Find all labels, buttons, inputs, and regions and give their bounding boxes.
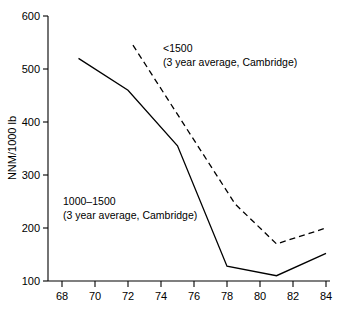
x-tick-label: 80	[254, 290, 266, 302]
x-tick-label: 82	[287, 290, 299, 302]
y-tick-label: 100	[22, 275, 40, 287]
x-axis-ticks	[62, 281, 326, 287]
x-tick-label: 68	[56, 290, 68, 302]
annotation-lower-line1: 1000–1500	[63, 195, 116, 207]
x-tick-label: 78	[221, 290, 233, 302]
x-tick-label: 70	[89, 290, 101, 302]
annotation-lower-line2: (3 year average, Cambridge)	[63, 209, 197, 221]
annotation-lower: 1000–1500 (3 year average, Cambridge)	[63, 195, 197, 221]
x-tick-label: 72	[122, 290, 134, 302]
y-axis-ticks	[43, 16, 48, 281]
y-tick-label: 200	[22, 222, 40, 234]
y-tick-label: 400	[22, 116, 40, 128]
y-axis-tick-labels: 600 500 400 300 200 100	[22, 10, 40, 287]
chart-figure: 600 500 400 300 200 100 68 70 72 74 76	[0, 0, 346, 309]
x-tick-label: 74	[155, 290, 167, 302]
y-tick-label: 300	[22, 169, 40, 181]
y-axis-title: NNM/1000 lb	[6, 116, 18, 180]
line-chart: 600 500 400 300 200 100 68 70 72 74 76	[0, 0, 346, 309]
y-tick-label: 500	[22, 63, 40, 75]
x-tick-label: 76	[188, 290, 200, 302]
annotation-upper-line2: (3 year average, Cambridge)	[163, 56, 297, 68]
series-line-1000-1500	[79, 58, 327, 275]
x-tick-label: 84	[320, 290, 332, 302]
annotation-upper-line1: <1500	[163, 42, 193, 54]
x-axis-tick-labels: 68 70 72 74 76 78 80 82 84	[56, 290, 332, 302]
y-tick-label: 600	[22, 10, 40, 22]
annotation-upper: <1500 (3 year average, Cambridge)	[163, 42, 297, 68]
